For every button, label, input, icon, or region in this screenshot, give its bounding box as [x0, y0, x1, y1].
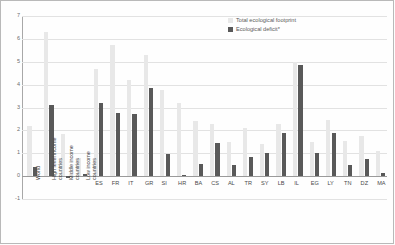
bar-eg-footprint	[310, 142, 314, 176]
x-label-eg: EG	[311, 180, 319, 186]
gridline-2	[22, 130, 387, 131]
bar-ly-footprint	[326, 120, 330, 176]
x-label-tr: TR	[244, 180, 251, 186]
legend-label-1: Total ecological footprint	[236, 17, 296, 23]
bar-es-deficit	[99, 103, 103, 176]
y-tick-label-6: 6	[2, 36, 20, 42]
x-label-it: IT	[128, 180, 133, 186]
bar-ma-deficit	[381, 173, 385, 176]
bar-il-deficit	[298, 65, 302, 176]
bar-ba-deficit	[199, 164, 203, 177]
gridline--1	[22, 199, 387, 200]
y-axis-tick-labels: -101234567	[0, 16, 20, 199]
x-label-si: SI	[162, 180, 167, 186]
gridline-5	[22, 62, 387, 63]
bar-si-footprint	[160, 90, 164, 176]
x-label-tn: TN	[344, 180, 351, 186]
y-tick-label-3: 3	[2, 105, 20, 111]
bar-lb-footprint	[276, 124, 280, 177]
bar-sy-deficit	[265, 153, 269, 176]
y-tick-label-4: 4	[2, 82, 20, 88]
y-tick-label-1: 1	[2, 151, 20, 157]
bar-ma-footprint	[376, 151, 380, 176]
legend-swatch-icon-2	[228, 27, 233, 32]
x-label-high-level-income-countries: High level incomecountries	[51, 138, 63, 181]
x-label-sy: SY	[261, 180, 268, 186]
chart-legend: Total ecological footprintEcological def…	[228, 17, 296, 35]
x-label-low-income-countries: Low incomecountries	[85, 151, 97, 180]
bar-it-footprint	[127, 80, 131, 176]
x-label-middle-income-countries: Middle incomecountries	[68, 145, 80, 180]
x-label-hr: HR	[178, 180, 186, 186]
bar-al-footprint	[227, 142, 231, 176]
bar-world-footprint	[27, 126, 31, 176]
y-tick-label-7: 7	[2, 13, 20, 19]
x-label-ly: LY	[327, 180, 333, 186]
x-label-al: AL	[228, 180, 235, 186]
bar-tr-deficit	[249, 157, 253, 176]
x-label-fr: FR	[112, 180, 119, 186]
x-label-lb: LB	[278, 180, 285, 186]
bar-cs-footprint	[210, 124, 214, 177]
bar-ly-deficit	[332, 133, 336, 176]
x-label-ma: MA	[377, 180, 385, 186]
bar-hr-footprint	[177, 103, 181, 176]
legend-item-2[interactable]: Ecological deficit*	[228, 26, 296, 32]
bar-eg-deficit	[315, 153, 319, 176]
legend-label-2: Ecological deficit*	[236, 26, 280, 32]
x-label-es: ES	[95, 180, 102, 186]
y-tick-label-2: 2	[2, 128, 20, 134]
gridline-3	[22, 108, 387, 109]
legend-item-1[interactable]: Total ecological footprint	[228, 17, 296, 23]
bar-si-deficit	[166, 154, 170, 176]
bar-il-footprint	[293, 62, 297, 176]
bar-gr-deficit	[149, 88, 153, 176]
bar-sy-footprint	[260, 144, 264, 176]
bar-gr-footprint	[144, 55, 148, 176]
y-tick-label-5: 5	[2, 59, 20, 65]
bar-fr-deficit	[116, 113, 120, 176]
ecological-footprint-chart: -101234567 WorldHigh level incomecountri…	[0, 0, 395, 245]
bar-tn-deficit	[348, 165, 352, 176]
y-tick-label-0: 0	[2, 173, 20, 179]
gridline-4	[22, 85, 387, 86]
bar-it-deficit	[132, 114, 136, 176]
bar-ba-footprint	[193, 121, 197, 176]
x-label-gr: GR	[145, 180, 153, 186]
x-label-ba: BA	[195, 180, 202, 186]
bar-al-deficit	[232, 165, 236, 176]
bar-tn-footprint	[343, 141, 347, 176]
x-label-cs: CS	[211, 180, 219, 186]
x-label-world: World	[35, 166, 41, 180]
x-label-il: IL	[294, 180, 299, 186]
bar-tr-footprint	[243, 128, 247, 176]
bar-hr-deficit	[182, 175, 186, 176]
bar-dz-deficit	[365, 159, 369, 176]
bar-dz-footprint	[359, 136, 363, 176]
bar-lb-deficit	[282, 133, 286, 176]
bar-cs-deficit	[215, 143, 219, 176]
legend-swatch-icon-1	[228, 18, 233, 23]
x-label-dz: DZ	[361, 180, 368, 186]
bar-fr-footprint	[110, 45, 114, 177]
x-axis-category-labels: WorldHigh level incomecountriesMiddle in…	[22, 0, 387, 60]
y-tick-label--1: -1	[2, 196, 20, 202]
